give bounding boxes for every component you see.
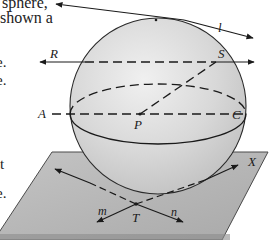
label-l: l	[218, 20, 222, 35]
figure-canvas: sphere, shown a e. e. t e.	[0, 0, 272, 240]
sphere-diagram: l R S A C P T X m n	[0, 0, 272, 240]
tangent-point-t	[134, 202, 138, 206]
label-t: T	[132, 210, 140, 225]
label-p: P	[133, 117, 142, 132]
label-r: R	[49, 46, 58, 61]
label-c: C	[232, 107, 241, 122]
center-point-p	[138, 112, 141, 115]
sphere	[70, 18, 246, 194]
label-a: A	[37, 106, 46, 121]
label-x: X	[247, 154, 257, 169]
label-n: n	[171, 205, 177, 219]
label-s: S	[218, 46, 225, 61]
label-m: m	[98, 204, 107, 218]
